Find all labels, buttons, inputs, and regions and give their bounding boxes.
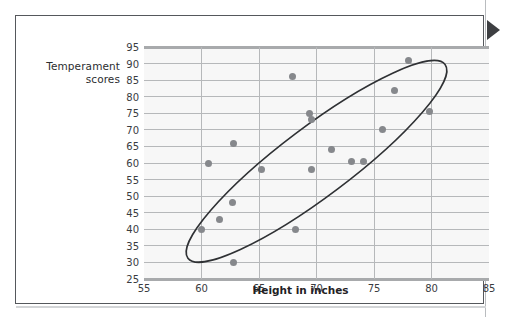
y-tick-label-90: 90 [126,58,139,69]
y-tick-label-50: 50 [126,191,139,202]
y-axis-title: Temperament scores [34,60,120,86]
x-tick-label-85: 85 [483,283,496,294]
plot-area: 253035404550556065707580859095 556065707… [144,47,489,279]
page-canvas: Temperament scores 253035404550556065707… [0,0,506,317]
data-point [348,158,355,165]
y-tick-label-65: 65 [126,141,139,152]
y-axis-title-line2: scores [34,73,120,86]
y-tick-label-95: 95 [126,42,139,53]
y-tick-label-60: 60 [126,158,139,169]
plot-inner: 253035404550556065707580859095 556065707… [144,47,489,279]
y-tick-label-85: 85 [126,75,139,86]
y-tick-label-45: 45 [126,207,139,218]
right-triangle-marker [487,20,500,40]
correlation-ellipse [144,47,489,279]
y-tick-label-75: 75 [126,108,139,119]
data-point [198,226,205,233]
y-tick-label-55: 55 [126,174,139,185]
y-tick-label-70: 70 [126,124,139,135]
data-point [426,108,433,115]
data-point [391,87,398,94]
data-point [379,126,386,133]
data-point [258,166,265,173]
data-point [205,160,212,167]
y-tick-label-80: 80 [126,91,139,102]
data-point [230,140,237,147]
y-tick-label-30: 30 [126,257,139,268]
page-edge-shadow [16,306,486,308]
y-axis-title-line1: Temperament [34,60,120,73]
data-point [405,57,412,64]
y-tick-label-35: 35 [126,240,139,251]
figure-frame: Temperament scores 253035404550556065707… [15,15,484,304]
x-axis-title: Height in inches [128,284,473,296]
y-tick-label-40: 40 [126,224,139,235]
data-point [360,158,367,165]
